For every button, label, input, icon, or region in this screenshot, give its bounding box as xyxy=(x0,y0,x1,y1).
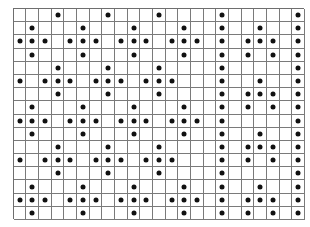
grid-cell xyxy=(191,167,204,180)
grid-cell xyxy=(254,49,267,62)
dot-marker xyxy=(296,118,301,123)
grid-cell xyxy=(267,194,280,207)
grid-cell xyxy=(26,180,39,193)
grid-cell xyxy=(191,49,204,62)
dot-marker xyxy=(296,210,301,215)
dot-marker xyxy=(131,26,136,31)
dot-marker xyxy=(245,210,250,215)
grid-cell xyxy=(166,180,179,193)
grid-cell xyxy=(216,9,229,22)
grid-cell xyxy=(166,101,179,114)
grid-cell xyxy=(90,207,103,220)
grid-cell xyxy=(128,62,141,75)
grid-cell xyxy=(153,128,166,141)
dot-marker xyxy=(55,92,60,97)
dot-marker xyxy=(156,92,161,97)
grid-cell xyxy=(26,35,39,48)
grid-cell xyxy=(77,128,90,141)
grid-cell xyxy=(102,167,115,180)
grid-cell xyxy=(204,62,217,75)
grid-cell xyxy=(242,22,255,35)
grid-cell xyxy=(128,141,141,154)
grid-cell xyxy=(52,167,65,180)
grid-cell xyxy=(90,101,103,114)
dot-marker xyxy=(245,158,250,163)
grid-cell xyxy=(52,75,65,88)
grid-cell xyxy=(64,101,77,114)
dot-marker xyxy=(296,184,301,189)
grid-cell xyxy=(280,167,293,180)
dot-marker xyxy=(106,158,111,163)
dot-marker xyxy=(220,118,225,123)
grid-cell xyxy=(52,35,65,48)
grid-cell xyxy=(153,101,166,114)
dot-marker xyxy=(245,52,250,57)
dot-marker xyxy=(118,79,123,84)
grid-cell xyxy=(292,9,305,22)
dot-marker xyxy=(296,39,301,44)
grid-cell xyxy=(52,49,65,62)
grid-cell xyxy=(64,207,77,220)
dot-marker xyxy=(220,210,225,215)
grid-cell xyxy=(292,154,305,167)
dot-marker xyxy=(220,171,225,176)
grid-cell xyxy=(229,62,242,75)
grid-cell xyxy=(153,9,166,22)
dot-marker xyxy=(42,118,47,123)
grid-cell xyxy=(153,49,166,62)
dot-marker xyxy=(80,26,85,31)
grid-cell xyxy=(140,128,153,141)
grid-cell xyxy=(52,180,65,193)
grid-cell xyxy=(292,115,305,128)
grid-cell xyxy=(242,154,255,167)
grid-cell xyxy=(280,49,293,62)
dot-marker xyxy=(169,197,174,202)
grid-cell xyxy=(115,22,128,35)
grid-cell xyxy=(140,194,153,207)
grid-cell xyxy=(14,167,27,180)
dot-marker xyxy=(106,65,111,70)
dot-marker xyxy=(296,26,301,31)
grid-cell xyxy=(39,22,52,35)
grid-cell xyxy=(267,35,280,48)
grid-cell xyxy=(204,9,217,22)
dot-marker xyxy=(17,158,22,163)
dot-marker xyxy=(131,131,136,136)
grid-cell xyxy=(153,75,166,88)
dot-marker xyxy=(93,158,98,163)
grid-cell xyxy=(204,49,217,62)
grid-cell xyxy=(166,141,179,154)
dot-marker xyxy=(118,197,123,202)
dot-marker xyxy=(118,118,123,123)
grid-cell xyxy=(254,101,267,114)
grid-cell xyxy=(292,128,305,141)
grid-cell xyxy=(153,207,166,220)
grid-cell xyxy=(254,88,267,101)
grid-cell xyxy=(140,154,153,167)
dot-marker xyxy=(245,39,250,44)
grid-cell xyxy=(52,154,65,167)
dot-marker xyxy=(296,105,301,110)
grid-cell xyxy=(52,88,65,101)
grid-cell xyxy=(216,180,229,193)
grid-cell xyxy=(178,154,191,167)
dot-marker xyxy=(270,52,275,57)
grid-cell xyxy=(115,9,128,22)
grid-cell xyxy=(242,141,255,154)
grid-cell xyxy=(77,75,90,88)
dot-marker xyxy=(220,13,225,18)
grid-cell xyxy=(242,62,255,75)
grid-cell xyxy=(64,194,77,207)
grid-cell xyxy=(242,128,255,141)
grid-cell xyxy=(39,35,52,48)
grid-cell xyxy=(292,49,305,62)
grid-cell xyxy=(280,101,293,114)
grid-cell xyxy=(267,22,280,35)
grid-cell xyxy=(166,167,179,180)
grid-cell xyxy=(191,101,204,114)
grid-cell xyxy=(115,167,128,180)
grid-cell xyxy=(166,88,179,101)
dot-marker xyxy=(220,105,225,110)
grid-cell xyxy=(191,62,204,75)
dot-marker xyxy=(42,79,47,84)
